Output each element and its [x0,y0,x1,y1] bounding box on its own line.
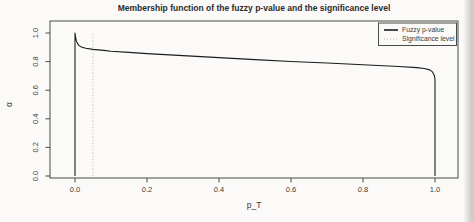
y-tick-label: 1.0 [31,28,40,38]
x-axis-ticks [75,178,435,183]
fuzzy-p-value-curve [75,33,435,176]
y-tick-label: 0.8 [31,56,40,66]
y-tick-label: 0.2 [31,142,40,152]
x-tick-label: 0.6 [286,185,296,194]
y-axis-ticks [46,33,51,176]
x-tick-label: 0.0 [70,185,80,194]
chart-canvas: Membership function of the fuzzy p-value… [0,0,474,222]
x-axis-tick-labels: 0.0 0.2 0.4 0.6 0.8 1.0 [70,185,440,194]
x-axis-label: p_T [247,200,262,210]
legend: Fuzzy p-value Significance level [379,23,457,46]
y-tick-label: 0.0 [31,171,40,181]
y-tick-label: 0.4 [31,114,40,124]
x-tick-label: 0.4 [214,185,224,194]
x-tick-label: 1.0 [430,185,440,194]
y-axis-tick-labels: 0.0 0.2 0.4 0.6 0.8 1.0 [31,28,40,181]
x-tick-label: 0.2 [142,185,152,194]
chart-title: Membership function of the fuzzy p-value… [118,3,391,13]
x-tick-label: 0.8 [358,185,368,194]
legend-label-significance-level: Significance level [402,35,455,43]
y-tick-label: 0.6 [31,85,40,95]
fuzzy-pvalue-figure: Membership function of the fuzzy p-value… [0,0,474,222]
y-axis-label: α [4,102,14,107]
legend-label-fuzzy-p-value: Fuzzy p-value [402,26,445,34]
